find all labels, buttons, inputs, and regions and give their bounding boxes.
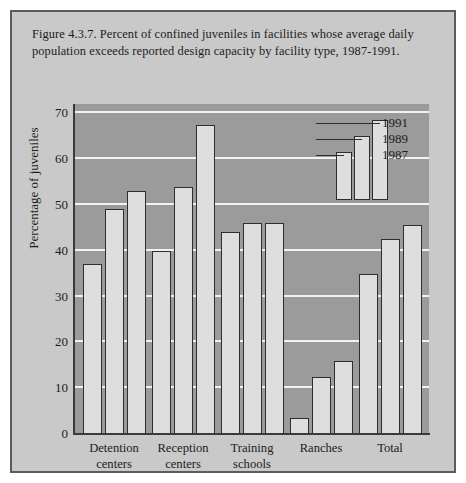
bar-1991 — [403, 225, 422, 434]
y-tick-label: 50 — [22, 197, 68, 213]
figure-panel: Figure 4.3.7. Percent of confined juveni… — [10, 10, 456, 473]
legend-leader-horizontal — [316, 139, 362, 140]
figure-caption: Figure 4.3.7. Percent of confined juveni… — [32, 26, 432, 60]
legend-leader-horizontal — [316, 123, 380, 124]
bar-1989 — [243, 223, 262, 434]
bar-1989 — [105, 209, 124, 434]
legend-sample-bar-1987 — [336, 152, 352, 200]
y-tick-label: 60 — [22, 151, 68, 167]
y-axis-tick-labels: 010203040506070 — [12, 104, 68, 434]
x-tick-label-line: Total — [335, 440, 445, 456]
bar-1991 — [127, 191, 146, 434]
bar-1987 — [290, 418, 309, 434]
legend-label-1989: 1989 — [372, 131, 408, 147]
bar-group — [152, 104, 215, 434]
chart-legend: 1991 1989 1987 — [278, 114, 408, 200]
bar-1989 — [312, 377, 331, 434]
legend-sample-bar-1989 — [354, 136, 370, 200]
plot-area: 1991 1989 1987 — [74, 104, 429, 434]
bar-group — [83, 104, 146, 434]
y-axis-line — [73, 104, 75, 435]
y-tick-label: 20 — [22, 334, 68, 350]
y-tick-label: 40 — [22, 243, 68, 259]
legend-label-1987: 1987 — [372, 147, 408, 163]
legend-leader-horizontal — [316, 155, 344, 156]
bar-1987 — [359, 274, 378, 434]
bar-1989 — [174, 187, 193, 435]
bar-1987 — [221, 232, 240, 434]
y-tick-label: 30 — [22, 289, 68, 305]
bar-1991 — [334, 361, 353, 434]
bar-1987 — [83, 264, 102, 434]
x-axis-line — [73, 433, 430, 435]
bar-group — [221, 104, 284, 434]
y-tick-label: 10 — [22, 380, 68, 396]
bar-1987 — [152, 251, 171, 434]
y-tick-label: 70 — [22, 105, 68, 121]
x-tick-label-line: schools — [197, 456, 307, 472]
x-tick-label: Total — [335, 440, 445, 456]
bar-1991 — [265, 223, 284, 434]
bar-1989 — [381, 239, 400, 434]
bar-1991 — [196, 125, 215, 434]
